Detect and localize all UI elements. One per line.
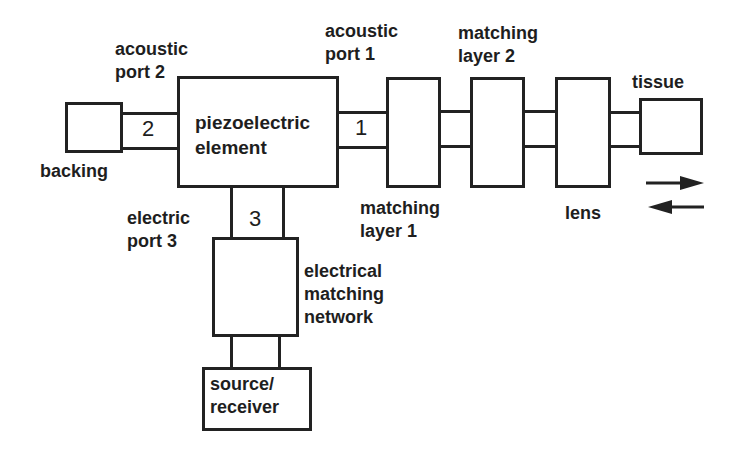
m2-lens-bottom-line — [524, 145, 556, 148]
right-arrow-icon — [646, 176, 704, 190]
matching-layer-1-box — [386, 77, 441, 188]
m1-m2-top-line — [440, 110, 471, 113]
electric-port-3-label: electric port 3 — [127, 207, 190, 253]
tissue-box — [639, 98, 703, 155]
matching-layer-1-label: matching layer 1 — [360, 197, 440, 243]
port-2-number: 2 — [142, 117, 154, 141]
matching-layer-2-label: matching layer 2 — [458, 22, 538, 68]
lens-box — [555, 77, 611, 188]
acoustic-port-1-label: acoustic port 1 — [325, 20, 398, 66]
source-left-line — [230, 336, 233, 368]
m1-m2-bottom-line — [440, 145, 471, 148]
acoustic-port-2-label: acoustic port 2 — [115, 38, 188, 84]
port-1-bottom-line — [338, 146, 387, 149]
lens-tissue-bottom-line — [610, 145, 640, 148]
matching-layer-2-box — [470, 77, 525, 188]
port-1-top-line — [338, 111, 387, 114]
source-receiver-label: source/ receiver — [210, 373, 279, 419]
lens-label: lens — [565, 202, 601, 225]
backing-box — [65, 102, 123, 153]
electrical-matching-network-box — [212, 237, 299, 337]
port-2-top-line — [122, 112, 178, 115]
piezoelectric-element-label: piezoelectric element — [195, 110, 310, 160]
port-3-number: 3 — [249, 207, 261, 231]
electrical-matching-network-label: electrical matching network — [304, 260, 384, 329]
tissue-label: tissue — [632, 71, 684, 94]
backing-label: backing — [40, 160, 108, 183]
m2-lens-top-line — [524, 110, 556, 113]
port-1-number: 1 — [355, 116, 367, 140]
left-arrow-icon — [648, 200, 704, 214]
source-right-line — [278, 336, 281, 368]
direction-arrows-icon — [646, 170, 708, 218]
port-3-right-line — [282, 187, 285, 238]
port-2-bottom-line — [122, 147, 178, 150]
port-3-left-line — [230, 187, 233, 238]
lens-tissue-top-line — [610, 111, 640, 114]
